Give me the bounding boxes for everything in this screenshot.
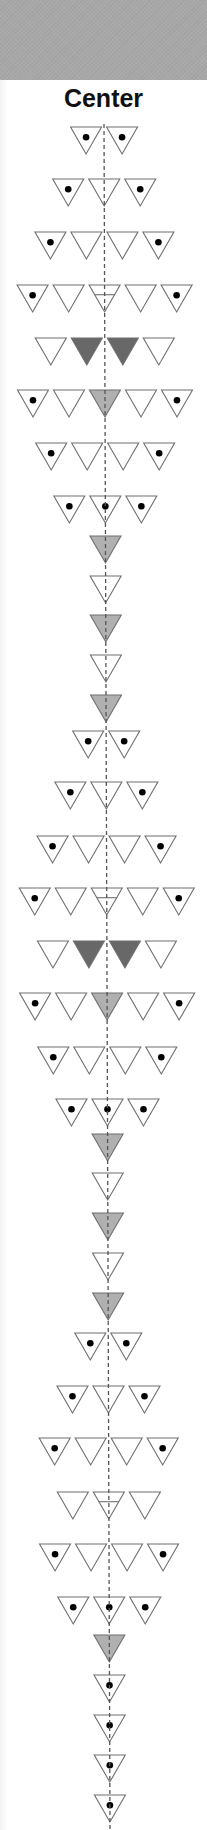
dot-marker-icon (47, 239, 54, 246)
plain-triangle-icon (72, 443, 103, 470)
dot-marker-icon (157, 843, 164, 850)
plain-triangle-icon (109, 836, 140, 863)
plain-triangle-icon (143, 338, 174, 365)
plain-triangle-icon (112, 1544, 143, 1571)
dot-marker-icon (30, 397, 37, 404)
plain-triangle-icon (71, 232, 102, 259)
plain-triangle-icon (125, 390, 156, 417)
dot-marker-icon (69, 1393, 76, 1400)
dot-marker-icon (48, 450, 55, 457)
dot-marker-icon (141, 1393, 148, 1400)
dot-marker-icon (29, 292, 36, 299)
plain-triangle-icon (57, 1492, 88, 1519)
dot-marker-icon (31, 895, 38, 902)
plain-triangle-icon (128, 993, 159, 1020)
plain-triangle-icon (108, 443, 139, 470)
pattern-rows (17, 127, 194, 1822)
dot-marker-icon (155, 239, 162, 246)
plain-triangle-icon (53, 390, 84, 417)
dot-marker-icon (174, 397, 181, 404)
plain-triangle-icon (75, 1438, 106, 1465)
dot-marker-icon (65, 186, 72, 193)
plain-triangle-icon (37, 941, 68, 968)
dot-marker-icon (123, 1340, 130, 1347)
plain-triangle-icon (145, 941, 176, 968)
dot-marker-icon (158, 1054, 165, 1061)
dot-marker-icon (67, 789, 74, 796)
dot-marker-icon (52, 1551, 59, 1558)
dark-triangle-icon (109, 941, 140, 968)
dot-marker-icon (66, 503, 73, 510)
dot-marker-icon (68, 1106, 75, 1113)
dark-triangle-icon (71, 338, 102, 365)
triangle-pattern-diagram (0, 0, 207, 1830)
dot-marker-icon (119, 134, 126, 141)
dot-marker-icon (137, 186, 144, 193)
dot-marker-icon (51, 1445, 58, 1452)
dot-marker-icon (49, 843, 56, 850)
plain-triangle-icon (127, 888, 158, 915)
dot-marker-icon (85, 738, 92, 745)
dot-marker-icon (87, 1340, 94, 1347)
dot-marker-icon (121, 738, 128, 745)
center-dashed-line (104, 124, 110, 1830)
plain-triangle-icon (73, 836, 104, 863)
dot-marker-icon (173, 292, 180, 299)
dot-marker-icon (142, 1604, 149, 1611)
plain-triangle-icon (76, 1544, 107, 1571)
dot-marker-icon (176, 1000, 183, 1007)
dot-marker-icon (83, 134, 90, 141)
dot-marker-icon (139, 789, 146, 796)
plain-triangle-icon (107, 232, 138, 259)
plain-triangle-icon (56, 993, 87, 1020)
plain-triangle-icon (111, 1438, 142, 1465)
dot-marker-icon (175, 895, 182, 902)
plain-triangle-icon (125, 285, 156, 312)
plain-triangle-icon (55, 888, 86, 915)
dark-triangle-icon (107, 338, 138, 365)
dot-marker-icon (156, 450, 163, 457)
dot-marker-icon (70, 1604, 77, 1611)
plain-triangle-icon (129, 1492, 160, 1519)
plain-triangle-icon (74, 1047, 105, 1074)
dot-marker-icon (140, 1106, 147, 1113)
plain-triangle-icon (35, 338, 66, 365)
dot-marker-icon (159, 1445, 166, 1452)
dot-marker-icon (160, 1551, 167, 1558)
dot-marker-icon (50, 1054, 57, 1061)
plain-triangle-icon (53, 285, 84, 312)
plain-triangle-icon (110, 1047, 141, 1074)
dark-triangle-icon (73, 941, 104, 968)
dot-marker-icon (138, 503, 145, 510)
dot-marker-icon (32, 1000, 39, 1007)
